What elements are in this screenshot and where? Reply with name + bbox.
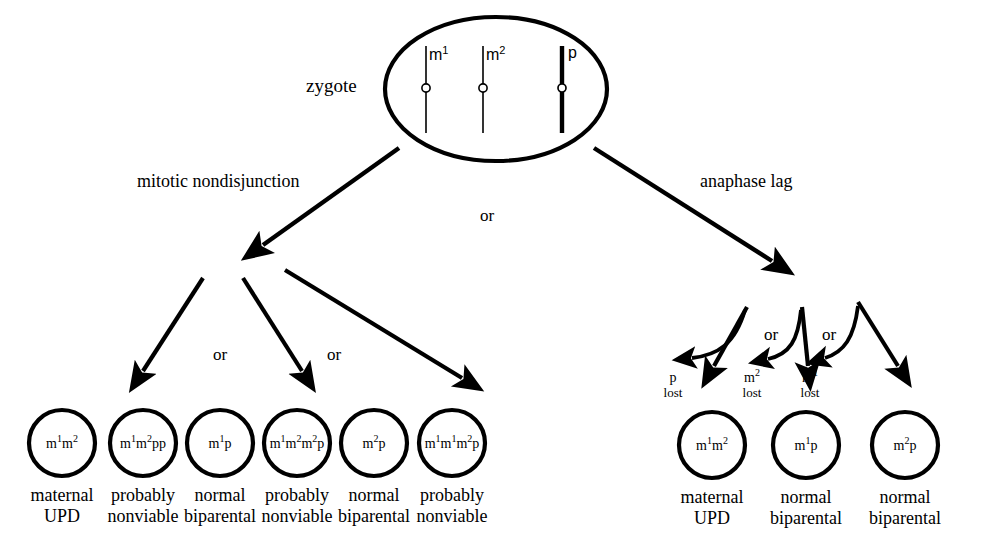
outcome-text-2: probablynonviable <box>108 485 179 527</box>
diagram-vector-layer <box>0 0 983 551</box>
outcome-text-8: normalbiparental <box>770 487 842 529</box>
or-label-mitotic-1: or <box>213 345 227 364</box>
genotype-5: m2p <box>363 436 386 452</box>
chromosome-m2-label: m2 <box>486 44 505 64</box>
genotype-1: m1m2 <box>46 436 78 452</box>
arrow-anaphase-lag <box>594 148 772 261</box>
arrow-mitotic-branch-3 <box>285 270 462 378</box>
branch-label-mitotic-nondisjunction: mitotic nondisjunction <box>137 171 300 191</box>
outcome-text-3: normalbiparental <box>184 485 256 527</box>
chromosome-m1-label: m1 <box>429 44 448 64</box>
arrow-mitotic-nondisjunction <box>263 148 399 245</box>
lost-label-2: m2lost <box>743 370 762 400</box>
genotype-3: m1p <box>209 436 232 452</box>
or-label-anaphase-1: or <box>764 325 778 344</box>
or-label-mitotic-2: or <box>327 345 341 364</box>
outcome-text-4: probablynonviable <box>262 485 333 527</box>
outcome-text-7: maternalUPD <box>681 487 744 529</box>
zygote-cell-outline <box>385 17 607 161</box>
arrow-mitotic-branch-2 <box>243 278 302 371</box>
chromosome-p-label: p <box>568 44 577 62</box>
outcome-text-1: maternalUPD <box>31 485 94 527</box>
lost-label-3: m1lost <box>801 370 820 400</box>
figure-canvas: zygote m1 m2 p mitotic nondisjunction an… <box>0 0 983 551</box>
arrow-mitotic-branch-1 <box>143 278 203 371</box>
genotype-8: m1p <box>795 438 818 454</box>
genotype-7: m1m2 <box>696 438 728 454</box>
genotype-6: m1m1m2p <box>425 436 480 452</box>
genotype-9: m2p <box>894 438 917 454</box>
or-label-top: or <box>480 206 494 225</box>
branch-label-anaphase-lag: anaphase lag <box>700 171 792 191</box>
anaphase-branch-1 <box>692 307 747 366</box>
zygote-label: zygote <box>306 75 357 96</box>
outcome-text-9: normalbiparental <box>869 487 941 529</box>
lost-label-1: plost <box>664 370 683 400</box>
outcome-text-6: probablynonviable <box>417 485 488 527</box>
genotype-4: m1m2m2p <box>270 436 325 452</box>
outcome-text-5: normalbiparental <box>338 485 410 527</box>
genotype-2: m1m2pp <box>120 436 166 452</box>
or-label-anaphase-2: or <box>822 325 836 344</box>
